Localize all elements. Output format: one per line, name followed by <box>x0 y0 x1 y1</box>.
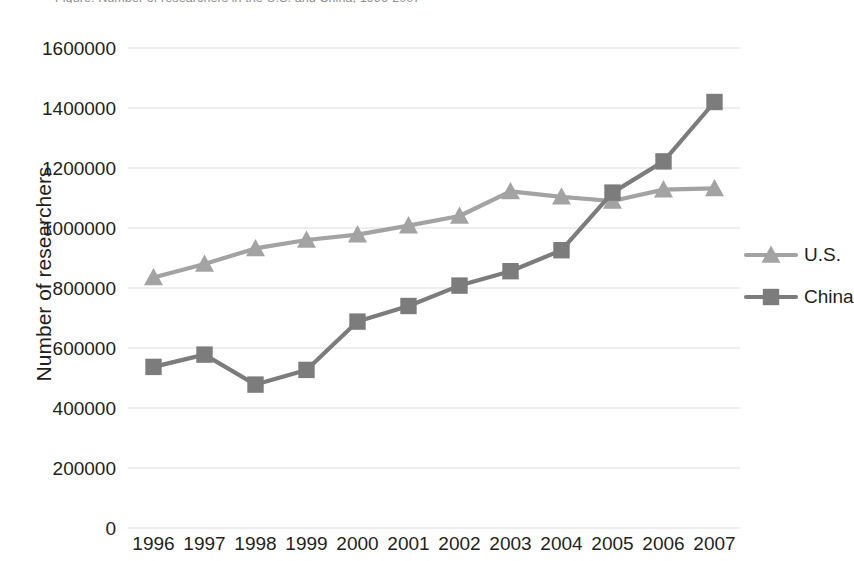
x-tick-label: 1997 <box>176 534 234 553</box>
square-marker <box>502 263 518 279</box>
square-marker <box>604 184 620 200</box>
x-tick-label: 1998 <box>227 534 285 553</box>
series-us <box>144 179 724 285</box>
square-marker <box>298 362 314 378</box>
square-marker <box>451 277 467 293</box>
square-marker <box>400 298 416 314</box>
square-marker <box>655 153 671 169</box>
legend-item-china[interactable] <box>746 289 796 305</box>
x-tick-label: 2005 <box>584 534 642 553</box>
x-tick-label: 1996 <box>125 534 183 553</box>
square-marker <box>553 242 569 258</box>
x-tick-label: 2002 <box>431 534 489 553</box>
legend-item-us[interactable] <box>746 246 796 263</box>
square-marker <box>763 289 779 305</box>
x-tick-label: 2007 <box>686 534 744 553</box>
x-tick-label: 1999 <box>278 534 336 553</box>
x-tick-label: 2006 <box>635 534 693 553</box>
series-line <box>154 188 715 277</box>
square-marker <box>247 376 263 392</box>
square-marker <box>706 94 722 110</box>
x-tick-label: 2000 <box>329 534 387 553</box>
gridlines <box>128 48 740 528</box>
legend-label[interactable]: China <box>804 287 854 306</box>
legend-label[interactable]: U.S. <box>804 245 841 264</box>
x-tick-label: 2003 <box>482 534 540 553</box>
square-marker <box>349 313 365 329</box>
square-marker <box>145 359 161 375</box>
x-tick-label: 2004 <box>533 534 591 553</box>
square-marker <box>196 346 212 362</box>
series-line <box>154 102 715 385</box>
x-tick-label: 2001 <box>380 534 438 553</box>
